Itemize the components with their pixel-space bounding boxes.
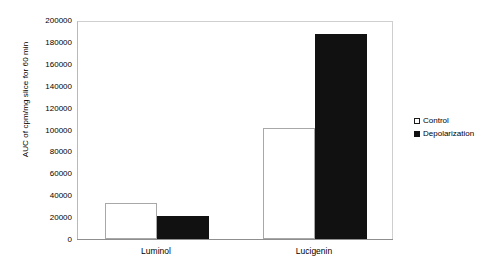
y-axis-tick-label: 100000	[16, 127, 72, 135]
y-axis-tick-label: 200000	[16, 17, 72, 25]
plot-inner	[78, 22, 392, 239]
plot-area	[77, 21, 393, 240]
bar-luminol-depolarization	[157, 216, 209, 239]
legend-item-depolarization[interactable]: Depolarization	[414, 128, 488, 139]
x-axis-line	[77, 239, 393, 240]
chart-legend: ControlDepolarization	[414, 115, 488, 141]
bar-lucigenin-control	[263, 128, 315, 239]
y-axis-tick-label: 140000	[16, 83, 72, 91]
hollow-square-marker	[414, 118, 420, 124]
bar-lucigenin-depolarization	[315, 34, 367, 239]
x-axis-category-label: Luminol	[77, 246, 235, 256]
filled-square-marker	[414, 131, 420, 137]
legend-item-control[interactable]: Control	[414, 115, 488, 126]
bar-luminol-control	[105, 203, 157, 239]
y-axis-tick-label: 0	[16, 236, 72, 244]
x-axis-category-label: Lucigenin	[235, 246, 393, 256]
y-axis-tick-label: 80000	[16, 148, 72, 156]
y-axis-tick-labels: 2000001800001600001400001200001000008000…	[16, 21, 72, 240]
y-axis-tick-label: 180000	[16, 39, 72, 47]
y-axis-tick-label: 60000	[16, 170, 72, 178]
x-axis-category-labels: LuminolLucigenin	[77, 246, 393, 262]
y-axis-tick-label: 20000	[16, 214, 72, 222]
y-axis-tick-label: 160000	[16, 61, 72, 69]
y-axis-tick-label: 120000	[16, 105, 72, 113]
bar-chart: AUC of cpm/mg slice for 60 min 200000180…	[0, 0, 491, 274]
legend-item-label: Depolarization	[423, 129, 474, 138]
y-axis-tick-label: 40000	[16, 192, 72, 200]
legend-item-label: Control	[423, 116, 449, 125]
